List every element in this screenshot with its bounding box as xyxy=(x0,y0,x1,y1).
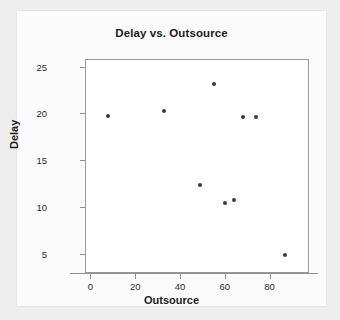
y-tick-label: 10 xyxy=(21,202,47,213)
data-point xyxy=(162,109,166,113)
data-point xyxy=(106,114,110,118)
x-axis-title: Outsource xyxy=(17,294,326,306)
x-tick-label: 60 xyxy=(210,281,240,292)
data-point xyxy=(198,183,202,187)
x-tick-mark xyxy=(270,274,271,279)
y-tick-label: 5 xyxy=(21,249,47,260)
chart-card: Delay vs. Outsource Delay 510152025 0204… xyxy=(17,11,326,306)
y-tick-label: 20 xyxy=(21,108,47,119)
x-tick-label: 20 xyxy=(120,281,150,292)
x-tick-mark xyxy=(90,274,91,279)
chart-title: Delay vs. Outsource xyxy=(17,27,326,39)
y-axis-title: Delay xyxy=(8,120,20,149)
data-points-layer xyxy=(86,60,308,272)
x-tick-label: 80 xyxy=(255,281,285,292)
data-point xyxy=(241,115,245,119)
data-point xyxy=(283,253,287,257)
chart-figure: Delay vs. Outsource Delay 510152025 0204… xyxy=(0,0,340,320)
x-axis-line xyxy=(70,273,318,274)
x-tick-mark xyxy=(135,274,136,279)
x-tick-mark xyxy=(180,274,181,279)
data-point xyxy=(232,198,236,202)
x-tick-mark xyxy=(225,274,226,279)
y-tick-label: 15 xyxy=(21,155,47,166)
x-tick-label: 0 xyxy=(75,281,105,292)
x-tick-label: 40 xyxy=(165,281,195,292)
plot-area xyxy=(85,59,309,273)
data-point xyxy=(212,82,216,86)
data-point xyxy=(254,115,258,119)
data-point xyxy=(223,201,227,205)
y-tick-label: 25 xyxy=(21,61,47,72)
